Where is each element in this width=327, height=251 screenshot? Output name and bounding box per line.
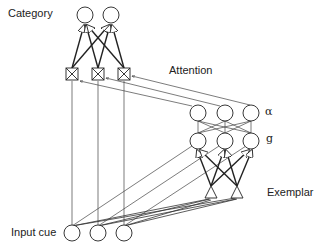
alpha-g-connections xyxy=(198,121,251,133)
alpha-node xyxy=(217,105,233,121)
alpha-label: α xyxy=(265,105,272,118)
network-diagram xyxy=(0,0,327,251)
input-node xyxy=(64,225,80,241)
alpha-node xyxy=(190,105,206,121)
input-nodes xyxy=(64,225,132,241)
attention-gates xyxy=(66,68,130,80)
exemplar-label: Exemplar xyxy=(267,186,313,198)
exemplar-node xyxy=(231,186,243,198)
attention-label: Attention xyxy=(169,64,212,76)
exemplar-nodes xyxy=(205,186,243,198)
gate-node xyxy=(92,68,104,80)
alpha-to-gate-connections xyxy=(80,76,250,106)
gate-node xyxy=(66,68,78,80)
input-node xyxy=(90,225,106,241)
g-node xyxy=(217,133,233,149)
g-node xyxy=(190,133,206,149)
input-cue-label: Input cue xyxy=(11,226,56,238)
g-nodes xyxy=(190,133,259,149)
gate-to-category-connections xyxy=(72,25,124,68)
exemplar-to-g-connections xyxy=(197,150,252,186)
input-to-gate-connections xyxy=(72,81,124,225)
category-nodes xyxy=(77,7,119,23)
g-node xyxy=(243,133,259,149)
exemplar-node xyxy=(205,186,217,198)
category-label: Category xyxy=(8,7,53,19)
g-label: g xyxy=(266,132,273,145)
alpha-node xyxy=(243,105,259,121)
input-to-exemplar-connections xyxy=(72,198,237,226)
gate-node xyxy=(118,68,130,80)
category-node xyxy=(103,7,119,23)
category-node xyxy=(77,7,93,23)
alpha-nodes xyxy=(190,105,259,121)
input-node xyxy=(116,225,132,241)
